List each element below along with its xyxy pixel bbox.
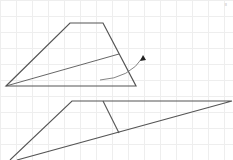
arrowhead-icon (140, 55, 146, 61)
lower-shape (10, 101, 232, 160)
geometry-diagram (0, 0, 233, 160)
rotation-arrow (100, 55, 146, 80)
trapezoid (6, 23, 136, 86)
arrow-curve (100, 57, 143, 80)
lower-shape-segment (103, 101, 119, 133)
lower-shape-outline (10, 101, 232, 160)
